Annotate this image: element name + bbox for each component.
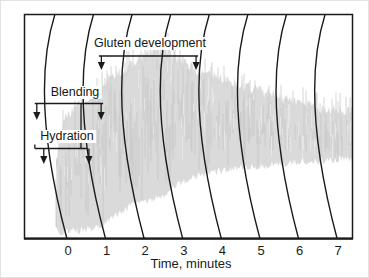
annotation-label-blending: Blending <box>49 86 102 99</box>
annotation-label-gluten-development: Gluten development <box>92 37 208 50</box>
x-tick-label-2: 2 <box>142 243 149 258</box>
down-arrowhead <box>98 62 105 70</box>
x-tick-label-6: 6 <box>296 243 303 258</box>
mixograph-figure: Time, minutes 01234567 Hydration Blendin… <box>0 0 369 278</box>
down-arrowhead <box>192 62 199 70</box>
x-tick-label-4: 4 <box>219 243 226 258</box>
x-tick-label-1: 1 <box>103 243 110 258</box>
x-axis: Time, minutes 01234567 <box>64 243 341 271</box>
x-axis-title: Time, minutes <box>150 256 232 271</box>
x-tick-label-7: 7 <box>335 243 342 258</box>
annotation-label-hydration: Hydration <box>38 130 96 143</box>
down-arrowhead <box>40 156 47 164</box>
x-tick-label-0: 0 <box>64 243 71 258</box>
x-tick-label-3: 3 <box>180 243 187 258</box>
x-tick-label-5: 5 <box>257 243 264 258</box>
down-arrowhead <box>33 112 40 120</box>
